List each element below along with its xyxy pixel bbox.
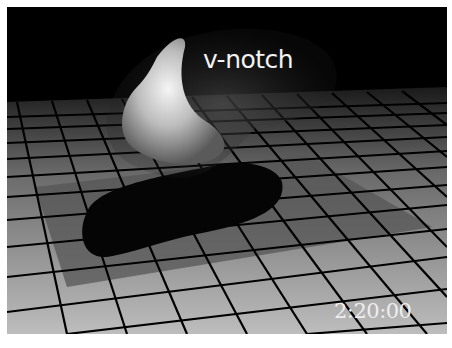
timestamp: 2:20:00 (334, 299, 411, 323)
structure-label: v-notch (203, 45, 293, 74)
render-viewport: v-notch 2:20:00 (7, 7, 447, 334)
